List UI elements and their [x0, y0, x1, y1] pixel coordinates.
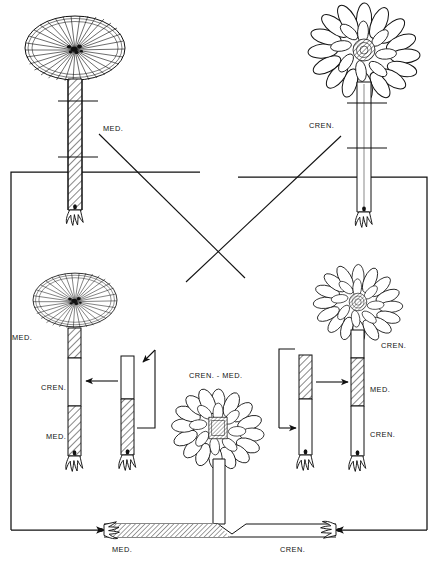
piece-left-seg-med — [121, 399, 134, 455]
acetabularia-grafting-diagram: MED. CREN. MED. CREN. MED. — [0, 0, 437, 561]
parent-crenulata — [307, 2, 420, 227]
label-bottom-right-cren: CREN. — [280, 545, 305, 554]
label-hybrid-cap: CREN. - MED. — [189, 371, 242, 380]
label-graft-left-top: MED. — [12, 333, 32, 342]
piece-left-seg-cren — [121, 356, 134, 399]
label-top-left-med: MED. — [103, 124, 123, 133]
bracket-right-piece — [279, 349, 296, 428]
label-graft-right-middle: MED. — [370, 385, 390, 394]
piece-right-seg-med — [299, 355, 312, 399]
graft-left-seg-med-top — [68, 328, 81, 358]
graft-cren-med-cren — [313, 264, 403, 472]
piece-right-seg-cren — [299, 399, 312, 455]
label-top-right-cren: CREN. — [309, 121, 334, 130]
graft-med-cren-med — [33, 273, 117, 471]
stalk-piece-med-over-cren — [297, 355, 314, 470]
label-graft-left-middle: CREN. — [41, 383, 66, 392]
label-graft-right-bottom: CREN. — [370, 430, 395, 439]
label-graft-left-bottom: MED. — [46, 432, 66, 441]
graft-right-seg-med — [351, 358, 364, 406]
hybrid-base-med-half — [112, 524, 230, 537]
arrow-into-left-piece-head — [143, 350, 155, 362]
parent-mediterranea — [25, 16, 125, 225]
graft-right-seg-cren-top — [351, 330, 364, 358]
label-bottom-left-med: MED. — [112, 545, 132, 554]
graft-left-seg-cren — [68, 358, 81, 406]
med-cap-icon — [25, 16, 125, 81]
graft-left-cap-icon — [33, 273, 117, 328]
graft-left-seg-med-bottom — [68, 406, 81, 456]
stalk-piece-cren-over-med — [119, 356, 136, 470]
cross-graft-diagonals — [99, 134, 341, 282]
figure-canvas: MED. CREN. MED. CREN. MED. — [0, 0, 437, 561]
label-graft-right-top: CREN. — [381, 341, 406, 350]
bracket-left-piece — [137, 350, 155, 428]
graft-right-seg-cren-bottom — [351, 406, 364, 456]
